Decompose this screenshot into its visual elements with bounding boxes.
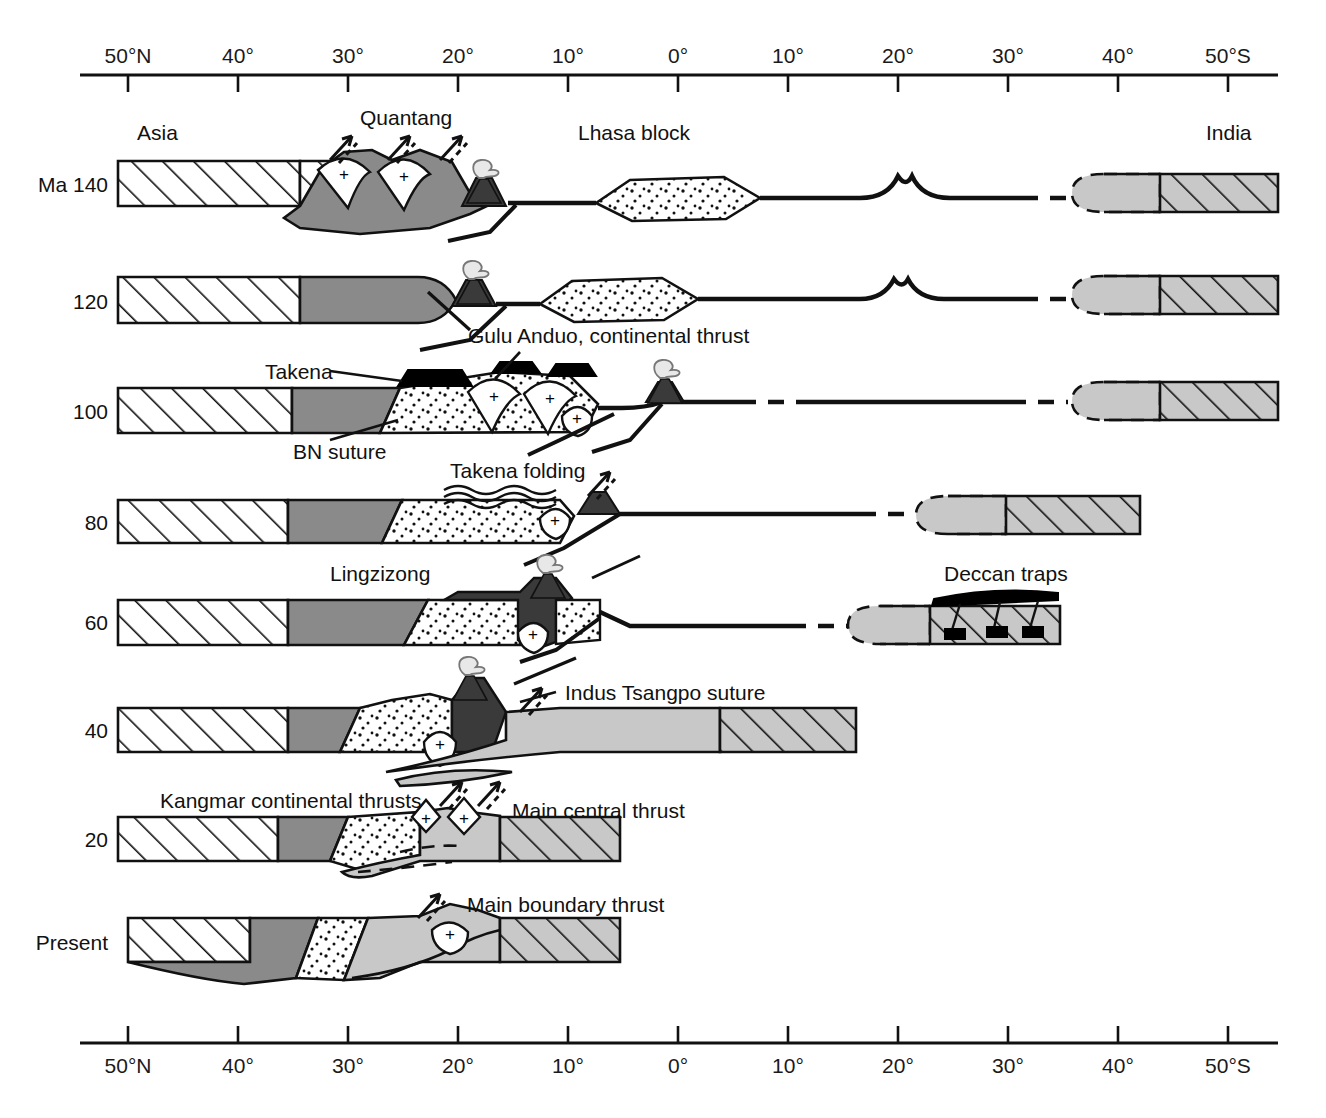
axis-tick-label-top-1: 40° <box>222 44 254 67</box>
axis-tick-label-top-0: 50°N <box>105 44 152 67</box>
label-asia: Asia <box>137 121 178 144</box>
unit-asia-crust-120 <box>118 277 300 323</box>
unit-india-margin-60 <box>848 606 930 644</box>
ocean-floor-120 <box>698 279 1022 299</box>
label-takena-folding: Takena folding <box>450 459 585 482</box>
granite-plus-60: + <box>528 625 538 644</box>
unit-india-crust-100 <box>1160 382 1278 420</box>
latitude-axis-top: 50°N 40° 30° 20° 10° 0° 10° 20° 30° 40° … <box>80 44 1278 92</box>
label-indus-tsangpo-suture: Indus Tsangpo suture <box>565 681 765 704</box>
label-kangmar-thrusts: Kangmar continental thrusts <box>160 789 421 812</box>
time-label-present: Present <box>36 931 109 954</box>
axis-tick-label-bottom-1: 40° <box>222 1054 254 1077</box>
axis-tick-label-top-5: 0° <box>668 44 688 67</box>
label-main-central-thrust: Main central thrust <box>512 799 685 822</box>
unit-india-crust-20 <box>500 817 620 861</box>
time-label-100ma: 100 <box>73 400 108 423</box>
axis-tick-label-bottom-4: 10° <box>552 1054 584 1077</box>
unit-india-margin-80 <box>916 496 1006 534</box>
volcano-icon-140 <box>467 160 501 203</box>
leader-takena-100 <box>330 371 402 381</box>
granite-plus-100-a: + <box>489 387 499 406</box>
ocean-floor-60 <box>600 612 790 626</box>
axis-tick-label-bottom-7: 20° <box>882 1054 914 1077</box>
granite-plus-20-b: + <box>459 809 469 828</box>
axis-tick-label-top-2: 30° <box>332 44 364 67</box>
label-india: India <box>1206 121 1252 144</box>
unit-asia-crust-60 <box>118 600 288 645</box>
unit-india-crust-80 <box>1006 496 1140 534</box>
axis-tick-label-bottom-6: 10° <box>772 1054 804 1077</box>
time-label-60ma: 60 <box>85 611 108 634</box>
granite-plus-80: + <box>550 511 560 530</box>
axis-tick-label-top-7: 20° <box>882 44 914 67</box>
label-main-boundary-thrust: Main boundary thrust <box>467 893 664 916</box>
granite-plus-140-b: + <box>399 167 409 186</box>
axis-tick-label-top-6: 10° <box>772 44 804 67</box>
axis-tick-label-bottom-0: 50°N <box>105 1054 152 1077</box>
unit-takena-100-c <box>548 364 596 376</box>
unit-asia-crust-140 <box>118 161 300 206</box>
volcano-icon-120 <box>457 261 491 304</box>
volcano-icon-100 <box>648 360 682 403</box>
axis-tick-label-bottom-3: 20° <box>442 1054 474 1077</box>
granite-plus-140-a: + <box>339 165 349 184</box>
time-label-40ma: 40 <box>85 719 108 742</box>
unit-takena-100-b <box>492 362 540 373</box>
unit-india-crust-40 <box>720 708 856 752</box>
deccan-dike-base-b <box>986 626 1008 638</box>
unit-india-margin-100 <box>1072 382 1160 420</box>
axis-ticks-bottom <box>128 1026 1228 1043</box>
label-deccan-traps: Deccan traps <box>944 562 1068 585</box>
subduction-slab-100-b <box>592 404 662 452</box>
unit-asia-crust-40 <box>118 708 288 752</box>
time-label-80ma: 80 <box>85 511 108 534</box>
axis-ticks-top <box>128 75 1228 92</box>
unit-asia-crust-present <box>128 918 250 962</box>
unit-india-margin-120 <box>1072 276 1160 314</box>
label-quantang: Quantang <box>360 106 452 129</box>
deccan-dike-base-a <box>944 628 966 640</box>
axis-tick-label-top-3: 20° <box>442 44 474 67</box>
unit-asia-crust-20 <box>118 817 278 861</box>
axis-tick-label-bottom-5: 0° <box>668 1054 688 1077</box>
axis-tick-label-bottom-2: 30° <box>332 1054 364 1077</box>
label-bn-suture: BN suture <box>293 440 386 463</box>
unit-india-crust-present <box>500 918 620 962</box>
deccan-dike-base-c <box>1022 626 1044 638</box>
axis-tick-label-top-9: 40° <box>1102 44 1134 67</box>
granite-plus-100-c: + <box>572 409 582 428</box>
label-gulu-anduo: Gulu Anduo, continental thrust <box>468 324 750 347</box>
axis-tick-label-bottom-10: 50°S <box>1205 1054 1251 1077</box>
thrust-arrow-20-b <box>478 782 505 809</box>
label-takena: Takena <box>265 360 333 383</box>
section-row-20ma: 20 + + <box>85 770 620 877</box>
axis-tick-label-bottom-9: 40° <box>1102 1054 1134 1077</box>
axis-tick-label-top-8: 30° <box>992 44 1024 67</box>
unit-india-crust-120 <box>1160 276 1278 314</box>
figure-canvas: 50°N 40° 30° 20° 10° 0° 10° 20° 30° 40° … <box>0 0 1326 1118</box>
granite-plus-20-a: + <box>421 809 431 828</box>
label-lhasa-block: Lhasa block <box>578 121 691 144</box>
granite-plus-100-b: + <box>545 389 555 408</box>
unit-deccan-traps-60 <box>932 591 1058 606</box>
time-label-140ma: Ma 140 <box>38 173 108 196</box>
unit-india-margin-140 <box>1072 174 1160 212</box>
axis-tick-label-top-4: 10° <box>552 44 584 67</box>
section-row-60ma: 60 + <box>85 555 1060 662</box>
time-label-20ma: 20 <box>85 828 108 851</box>
unit-lhasa-block-120 <box>540 278 698 322</box>
time-label-120ma: 120 <box>73 290 108 313</box>
section-row-80ma: 80 + <box>85 472 1140 565</box>
unit-takena-100-a <box>398 370 472 386</box>
leader-lingzizong-60 <box>592 556 640 578</box>
section-row-140ma: Ma 140 + + <box>38 136 1278 241</box>
unit-asia-crust-80 <box>118 500 288 543</box>
latitude-axis-bottom: 50°N 40° 30° 20° 10° 0° 10° 20° 30° 40° … <box>80 1026 1278 1077</box>
label-lingzizong: Lingzizong <box>330 562 430 585</box>
unit-lhasa-block-140 <box>596 177 760 221</box>
unit-qiangtang-120 <box>300 277 456 323</box>
granite-plus-present: + <box>445 925 455 944</box>
granite-plus-40: + <box>435 735 445 754</box>
ocean-floor-140 <box>760 176 1022 198</box>
